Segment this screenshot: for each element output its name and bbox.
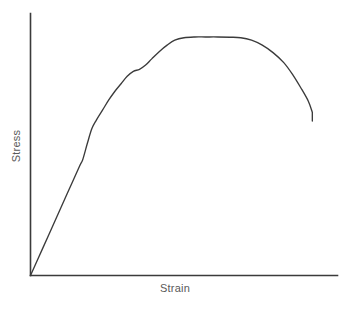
y-axis-label: Stress	[11, 130, 22, 162]
stress-strain-curve	[31, 37, 313, 276]
stress-strain-chart: Strain Stress	[0, 0, 350, 311]
chart-plot-area	[0, 0, 350, 311]
x-axis-label: Strain	[0, 283, 350, 294]
